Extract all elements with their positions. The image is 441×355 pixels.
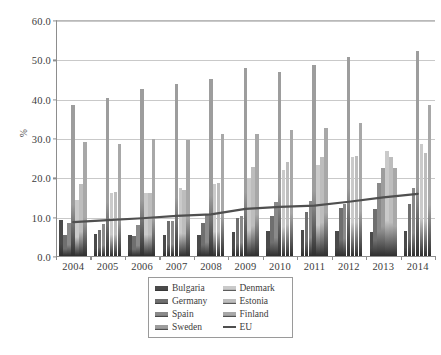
x-tick-label: 2011	[304, 261, 325, 272]
y-tick-label: 60.0	[32, 16, 57, 27]
legend-item-sweden[interactable]: Sweden	[155, 321, 219, 333]
eu-trend-line	[56, 20, 435, 256]
x-tick-label: 2009	[235, 261, 257, 272]
x-tick-mark	[90, 256, 91, 260]
x-tick-mark	[366, 256, 367, 260]
x-axis-line	[56, 256, 435, 257]
eu-line-path	[73, 194, 418, 222]
legend-color-swatch	[155, 299, 168, 304]
legend-item-germany[interactable]: Germany	[155, 295, 219, 307]
x-tick-label: 2014	[407, 261, 429, 272]
legend-label: Bulgaria	[172, 282, 205, 294]
x-tick-label: 2004	[62, 261, 84, 272]
x-tick-mark	[263, 256, 264, 260]
x-tick-mark	[159, 256, 160, 260]
legend-line-swatch	[223, 326, 236, 328]
y-tick-label: 50.0	[32, 55, 57, 66]
legend-color-swatch	[155, 286, 168, 291]
chart-container: % 0.010.020.030.040.050.060.0 2004200520…	[0, 0, 441, 355]
legend-label: Finland	[240, 308, 269, 320]
legend-label: Denmark	[240, 282, 275, 294]
x-tick-label: 2010	[269, 261, 291, 272]
legend-item-finland[interactable]: Finland	[223, 308, 287, 320]
legend-label: Spain	[172, 308, 194, 320]
y-tick-label: 10.0	[32, 212, 57, 223]
y-tick-label: 30.0	[32, 134, 57, 145]
legend-color-swatch	[223, 286, 236, 291]
legend-item-eu[interactable]: EU	[223, 321, 287, 333]
legend-label: Germany	[172, 295, 207, 307]
x-tick-label: 2008	[200, 261, 222, 272]
x-tick-label: 2013	[372, 261, 394, 272]
legend-label: Estonia	[240, 295, 269, 307]
y-tick-label: 40.0	[32, 94, 57, 105]
x-tick-label: 2012	[338, 261, 360, 272]
legend-item-denmark[interactable]: Denmark	[223, 282, 287, 294]
legend-color-swatch	[223, 312, 236, 317]
x-tick-mark	[194, 256, 195, 260]
x-tick-label: 2006	[131, 261, 153, 272]
legend-item-spain[interactable]: Spain	[155, 308, 219, 320]
legend-item-bulgaria[interactable]: Bulgaria	[155, 282, 219, 294]
legend-color-swatch	[223, 299, 236, 304]
x-tick-mark	[332, 256, 333, 260]
x-tick-mark	[125, 256, 126, 260]
x-tick-label: 2005	[97, 261, 119, 272]
y-tick-label: 20.0	[32, 173, 57, 184]
chart-legend: BulgariaDenmarkGermanyEstoniaSpainFinlan…	[148, 277, 293, 338]
x-tick-mark	[228, 256, 229, 260]
legend-label: EU	[240, 321, 253, 333]
x-tick-mark	[56, 256, 57, 260]
legend-color-swatch	[155, 312, 168, 317]
legend-item-estonia[interactable]: Estonia	[223, 295, 287, 307]
x-tick-label: 2007	[166, 261, 188, 272]
x-tick-mark	[435, 256, 436, 260]
x-tick-mark	[297, 256, 298, 260]
y-tick-label: 0.0	[37, 252, 57, 263]
legend-color-swatch	[155, 325, 168, 330]
legend-label: Sweden	[172, 321, 202, 333]
y-axis-title: %	[19, 129, 29, 137]
x-tick-mark	[401, 256, 402, 260]
